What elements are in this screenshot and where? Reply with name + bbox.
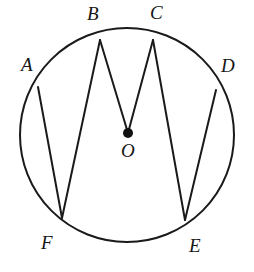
point-label-B: B xyxy=(87,4,99,23)
chord-B-F xyxy=(62,40,100,218)
point-label-C: C xyxy=(150,3,163,22)
point-label-A: A xyxy=(21,55,33,74)
geometry-canvas xyxy=(0,0,254,272)
point-label-D: D xyxy=(221,56,235,75)
center-dot-icon xyxy=(123,128,133,138)
radius-C-O xyxy=(128,40,153,133)
point-label-F: F xyxy=(41,233,53,252)
point-label-E: E xyxy=(189,236,201,255)
chord-C-E xyxy=(153,40,185,220)
radius-B-O xyxy=(100,40,128,133)
center-label-O: O xyxy=(121,141,135,160)
geometry-diagram: A B C D E F O xyxy=(0,0,254,272)
